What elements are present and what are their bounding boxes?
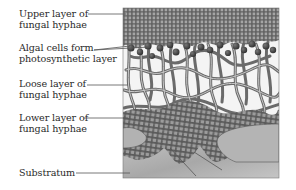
lichen-cross-section-diagram (0, 0, 296, 190)
diagram-layers (123, 8, 282, 180)
